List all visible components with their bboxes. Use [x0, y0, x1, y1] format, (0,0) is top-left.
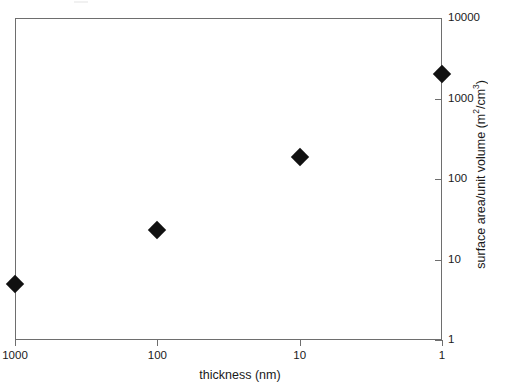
y-tick-label: 1000 [448, 93, 474, 105]
y-tick-mark [435, 260, 442, 261]
x-tick-mark [442, 340, 443, 346]
x-tick-label: 10 [293, 350, 306, 362]
y-axis-title-prefix: surface area/unit volume (m [474, 114, 488, 269]
scan-artifact [74, 1, 88, 3]
y-tick-mark [435, 99, 442, 100]
x-tick-label: 100 [148, 350, 167, 362]
y-axis-title-middle: /cm [474, 89, 488, 109]
x-tick-mark [157, 340, 158, 346]
y-tick-mark [435, 179, 442, 180]
y-tick-label: 10 [448, 254, 461, 266]
x-tick-mark [300, 340, 301, 346]
y-tick-mark [435, 18, 442, 19]
x-tick-label: 1000 [2, 350, 28, 362]
plot-area [15, 18, 442, 340]
chart-container: 100001000100101 1000100101 thickness (nm… [0, 0, 505, 388]
y-tick-mark [435, 340, 442, 341]
x-tick-label: 1 [439, 350, 445, 362]
y-tick-label: 100 [448, 173, 467, 185]
x-axis-title: thickness (nm) [0, 368, 480, 382]
y-axis-title-suffix: ) [474, 80, 488, 84]
y-axis-title-sup-volume: 3 [471, 84, 481, 89]
y-axis-title: surface area/unit volume (m2/cm3) [474, 80, 496, 269]
x-tick-mark [15, 340, 16, 346]
y-tick-label: 1 [448, 334, 454, 346]
y-tick-label: 10000 [448, 12, 480, 24]
y-axis-title-sup-area: 2 [471, 109, 481, 114]
